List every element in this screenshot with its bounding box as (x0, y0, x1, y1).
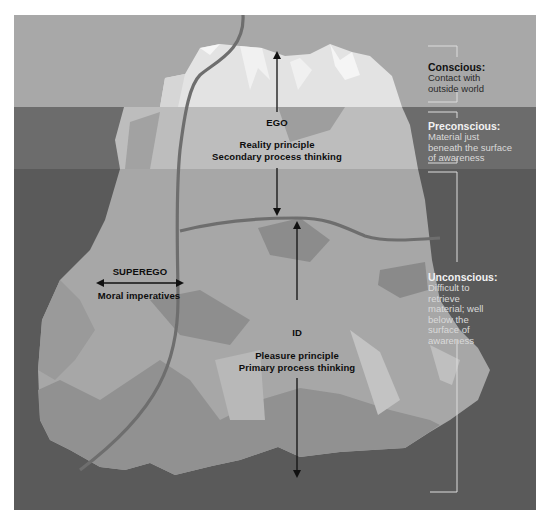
id-line2: Primary process thinking (222, 362, 372, 373)
superego-label: SUPEREGO (96, 266, 184, 277)
level-conscious-body: Contact with outside world (428, 73, 494, 94)
ego-line2: Secondary process thinking (197, 151, 357, 162)
level-preconscious-body: Material just beneath the surface of awa… (428, 132, 512, 164)
id-line1: Pleasure principle (232, 350, 362, 361)
superego-line1: Moral imperatives (89, 290, 189, 301)
level-preconscious: Preconscious: Material just beneath the … (428, 120, 530, 164)
ego-line1: Reality principle (207, 139, 347, 150)
level-conscious: Conscious: Contact with outside world (428, 61, 530, 94)
ego-label: EGO (257, 117, 297, 128)
id-label: ID (282, 327, 312, 338)
level-unconscious-body: Difficult to retrieve material; well bel… (428, 283, 496, 346)
level-unconscious: Unconscious: Difficult to retrieve mater… (428, 271, 530, 346)
